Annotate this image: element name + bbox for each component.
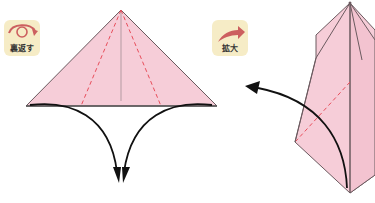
kite-model xyxy=(295,2,375,194)
triangle-model xyxy=(26,10,217,106)
arrowhead-right xyxy=(122,167,130,183)
origami-diagram xyxy=(0,0,375,203)
flip-over-badge: 裏返す xyxy=(4,20,40,56)
arrowhead-enlarge xyxy=(245,81,260,94)
enlarge-badge: 拡大 xyxy=(212,20,248,56)
arrowhead-left xyxy=(113,167,121,183)
fold-down-arrows xyxy=(30,104,212,172)
flip-over-label: 裏返す xyxy=(4,42,40,53)
enlarge-label: 拡大 xyxy=(212,42,248,53)
